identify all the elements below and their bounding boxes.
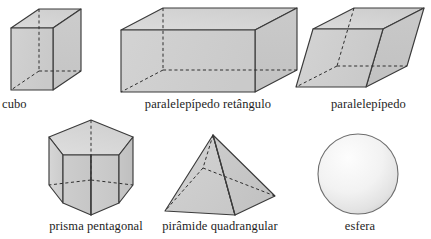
cube-face-front (11, 28, 53, 90)
pentagonal-prism-drawing (40, 115, 150, 220)
sphere-drawing (305, 130, 425, 222)
label-prisma-pentagonal: prisma pentagonal (36, 219, 156, 233)
pentagonal-prism-face-front-right (91, 155, 119, 215)
label-esfera: esfera (300, 219, 420, 233)
pentagonal-prism-face-front-left (63, 155, 91, 215)
sphere-body (318, 134, 398, 214)
square-pyramid-drawing (158, 128, 283, 220)
geometric-solids-figure: cubo paralelepípedo retângulo (0, 0, 431, 239)
label-paralelepipedo: paralelepípedo (306, 97, 431, 111)
rectangular-prism-drawing (115, 0, 305, 100)
label-cubo: cubo (2, 97, 62, 111)
label-paralelepipedo-retangulo: paralelepípedo retângulo (108, 97, 308, 111)
cube-drawing (0, 0, 100, 100)
rectangular-prism-face-front (121, 30, 255, 92)
label-piramide-quadrangular: pirâmide quadrangular (140, 219, 300, 233)
oblique-parallelepiped-drawing (296, 0, 431, 100)
